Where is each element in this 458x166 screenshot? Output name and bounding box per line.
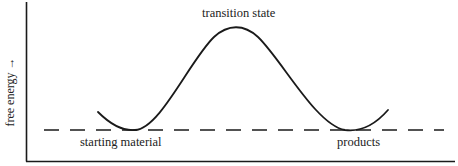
y-axis-label: free energy → [3, 57, 18, 126]
energy-profile-plot [0, 0, 458, 166]
transition-state-label: transition state [202, 6, 275, 21]
energy-curve [98, 27, 388, 130]
products-label: products [337, 135, 380, 150]
cropped-top-text [40, 0, 320, 3]
starting-material-label: starting material [80, 135, 162, 150]
